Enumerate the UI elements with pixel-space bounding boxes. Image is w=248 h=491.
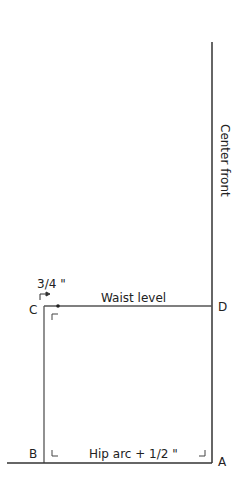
point-label-d: D (218, 300, 227, 314)
point-label-a: A (218, 455, 227, 469)
point-label-c: C (29, 303, 37, 317)
offset-dot (56, 304, 60, 308)
right-angle-mark-c (52, 314, 58, 320)
point-label-b: B (29, 447, 37, 461)
center-front-label: Center front (218, 124, 232, 197)
right-angle-mark-b (52, 450, 58, 456)
right-angle-mark-a (199, 450, 205, 456)
offset-label: 3/4 " (37, 277, 66, 291)
waist-label: Waist level (101, 291, 166, 305)
arrow-right-icon (40, 292, 50, 300)
hip-label: Hip arc + 1/2 " (89, 447, 178, 461)
skirt-pattern-diagram: Center front Waist level Hip arc + 1/2 "… (0, 0, 248, 491)
